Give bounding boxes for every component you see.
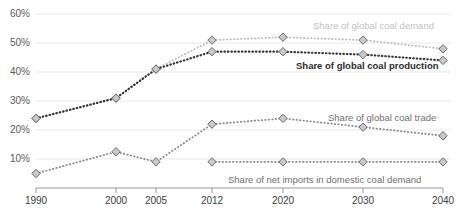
series-markers-group: [32, 33, 447, 178]
series-label-coal-trade: Share of global coal trade: [328, 112, 436, 123]
x-tick-label-2030: 2030: [340, 196, 386, 206]
series-label-net-imports: Share of net imports in domestic coal de…: [228, 174, 421, 185]
series-label-coal-production: Share of global coal production: [296, 60, 439, 71]
chart-plot-area: [0, 0, 457, 221]
series-line-0: [36, 37, 443, 118]
data-point-marker: [439, 56, 447, 64]
x-tick-label-2012: 2012: [189, 196, 235, 206]
y-tick-label-10: 10%: [0, 154, 30, 164]
series-lines-group: [36, 37, 443, 173]
x-tick-label-2020: 2020: [260, 196, 306, 206]
series-label-coal-demand: Share of global coal demand: [313, 20, 434, 31]
coal-shares-line-chart: 60% 50% 40% 30% 20% 10% 1990 2000 2005 2…: [0, 0, 457, 221]
data-point-marker: [279, 33, 287, 41]
y-tick-label-30: 30%: [0, 96, 30, 106]
y-tick-label-40: 40%: [0, 67, 30, 77]
data-point-marker: [208, 120, 216, 128]
data-point-marker: [32, 169, 40, 177]
data-point-marker: [279, 114, 287, 122]
data-point-marker: [208, 48, 216, 56]
data-point-marker: [439, 132, 447, 140]
data-point-marker: [32, 114, 40, 122]
y-tick-label-60: 60%: [0, 9, 30, 19]
x-tick-label-1990: 1990: [13, 196, 59, 206]
series-line-2: [36, 118, 443, 173]
y-tick-label-50: 50%: [0, 38, 30, 48]
x-tick-label-2005: 2005: [133, 196, 179, 206]
data-point-marker: [359, 50, 367, 58]
data-point-marker: [112, 148, 120, 156]
data-point-marker: [439, 45, 447, 53]
data-point-marker: [279, 48, 287, 56]
x-axis-group: [36, 188, 443, 193]
y-tick-label-20: 20%: [0, 125, 30, 135]
x-tick-label-2040: 2040: [420, 196, 457, 206]
gridlines-group: [36, 14, 450, 159]
